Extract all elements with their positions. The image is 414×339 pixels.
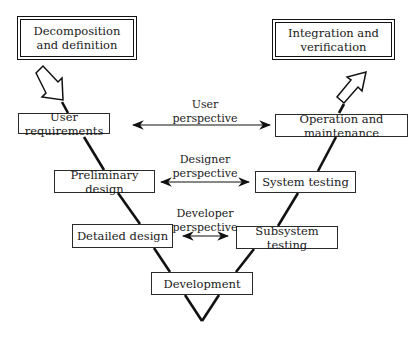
hollow-arrow-down-icon xyxy=(36,66,63,100)
integration-label: Integration and verification xyxy=(284,26,383,54)
operation-maintenance-label: Operation and maintenance xyxy=(276,112,407,140)
designer-perspective-label: Designer perspective xyxy=(160,153,250,181)
hollow-arrow-up-icon xyxy=(337,72,366,103)
detailed-design-box: Detailed design xyxy=(72,224,173,248)
user-requirements-label: User requirements xyxy=(19,110,109,138)
perspective-line1: User xyxy=(160,98,250,112)
system-testing-label: System testing xyxy=(262,175,349,189)
operation-maintenance-box: Operation and maintenance xyxy=(275,114,408,137)
detailed-design-label: Detailed design xyxy=(77,229,168,243)
decomposition-definition-box: Decomposition and definition xyxy=(17,16,137,60)
preliminary-design-box: Preliminary design xyxy=(54,170,155,193)
development-label: Development xyxy=(163,277,240,291)
user-requirements-box: User requirements xyxy=(18,113,110,134)
system-testing-box: System testing xyxy=(255,171,356,193)
perspective-line2: perspective xyxy=(160,221,250,235)
integration-verification-box: Integration and verification xyxy=(272,19,395,60)
decomposition-label: Decomposition and definition xyxy=(21,24,133,52)
developer-perspective-label: Developer perspective xyxy=(160,207,250,235)
perspective-line2: perspective xyxy=(160,112,250,126)
development-box: Development xyxy=(151,272,253,295)
user-perspective-label: User perspective xyxy=(160,98,250,126)
perspective-line1: Developer xyxy=(160,207,250,221)
subsystem-testing-box: Subsystem testing xyxy=(236,226,338,249)
preliminary-design-label: Preliminary design xyxy=(55,168,154,196)
subsystem-testing-label: Subsystem testing xyxy=(237,224,337,252)
perspective-line2: perspective xyxy=(160,167,250,181)
perspective-line1: Designer xyxy=(160,153,250,167)
